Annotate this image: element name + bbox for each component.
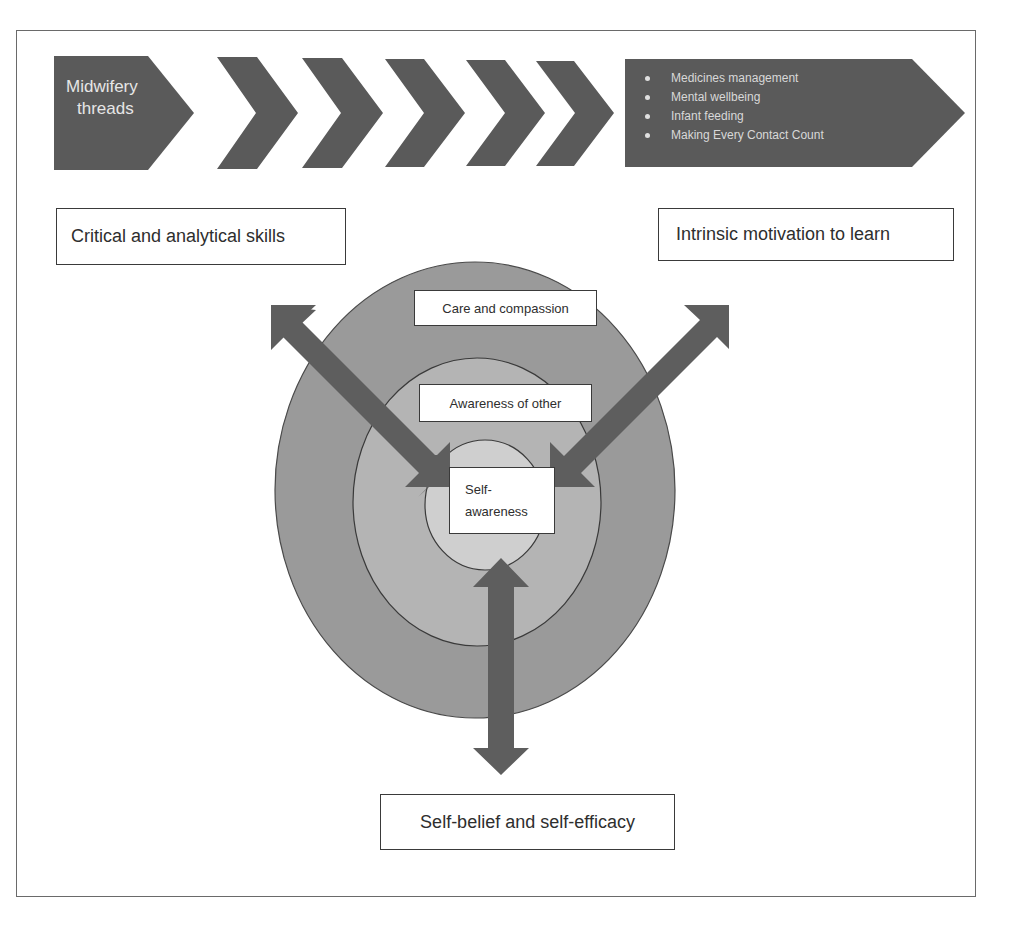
midwifery-label-line1: Midwifery (66, 76, 176, 98)
care-and-compassion-label: Care and compassion (414, 290, 597, 326)
diagram-canvas (0, 0, 1014, 927)
awareness-of-other-label: Awareness of other (419, 384, 592, 422)
chevron-3 (385, 59, 465, 167)
intrinsic-motivation-box: Intrinsic motivation to learn (658, 208, 954, 261)
self-awareness-line1: Self- (465, 479, 492, 501)
midwifery-threads-label: Midwifery threads (66, 76, 176, 120)
topic-item: Mental wellbeing (645, 88, 824, 107)
topic-item: Infant feeding (645, 107, 824, 126)
critical-analytical-skills-box: Critical and analytical skills (56, 208, 346, 265)
self-awareness-label: Self- awareness (449, 467, 555, 534)
topic-item: Making Every Contact Count (645, 126, 824, 145)
self-belief-self-efficacy-box: Self-belief and self-efficacy (380, 794, 675, 850)
chevron-5 (536, 61, 614, 166)
chevron-1 (217, 57, 298, 169)
topic-item: Medicines management (645, 69, 824, 88)
chevron-2 (302, 58, 383, 168)
chevron-4 (466, 60, 545, 166)
topics-bullet-list: Medicines management Mental wellbeing In… (645, 69, 824, 145)
self-awareness-line2: awareness (465, 501, 528, 523)
midwifery-label-line2: threads (66, 98, 176, 120)
